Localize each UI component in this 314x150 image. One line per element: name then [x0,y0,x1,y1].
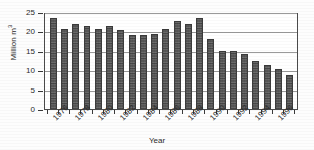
bar [185,24,192,109]
bar [84,26,91,109]
y-tick-label-15: 15 [0,48,35,56]
bar [230,51,237,109]
bar [140,35,147,110]
y-tick-20 [38,32,43,33]
plot-area [44,13,298,110]
y-tick-label-0: 0 [0,106,35,114]
bar [162,29,169,109]
bar [275,69,282,109]
x-tick-22 [294,110,295,114]
bar-chart-figure: Million m3 0510152025 197619781980198219… [0,0,314,150]
x-tick-16 [227,110,228,114]
y-tick-label-5: 5 [0,87,35,95]
y-tick-25 [38,13,43,14]
bar [252,61,259,109]
y-tick-5 [38,91,43,92]
bar [151,34,158,109]
gridline-25 [45,13,297,14]
bar [174,21,181,109]
bar [95,29,102,109]
bar [219,51,226,109]
x-tick-14 [204,110,205,114]
bar [241,54,248,109]
x-tick-20 [272,110,273,114]
y-tick-0 [38,110,43,111]
bar [129,35,136,109]
x-tick-18 [249,110,250,114]
x-axis-title: Year [0,136,314,145]
y-tick-label-10: 10 [0,67,35,75]
bar [207,39,214,109]
y-tick-label-20: 20 [0,28,35,36]
x-tick-2 [69,110,70,114]
bar [117,30,124,109]
x-tick-6 [114,110,115,114]
x-tick-10 [159,110,160,114]
bar [196,18,203,109]
bar [72,24,79,109]
y-tick-10 [38,71,43,72]
x-tick-0 [47,110,48,114]
bar [106,26,113,109]
bar [50,18,57,109]
x-tick-12 [182,110,183,114]
x-tick-8 [137,110,138,114]
x-tick-4 [92,110,93,114]
bar [61,29,68,109]
y-tick-label-25: 25 [0,9,35,17]
y-tick-15 [38,52,43,53]
